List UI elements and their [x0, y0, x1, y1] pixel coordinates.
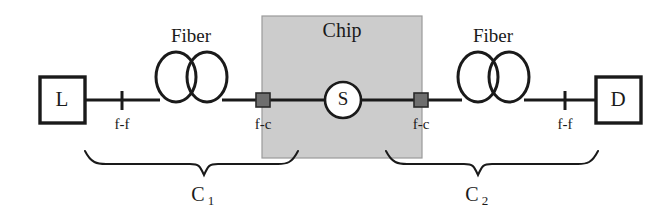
fc-connector-right: [414, 93, 428, 107]
brace-c1-subscript: 1: [208, 193, 215, 208]
ff-label-left: f-f: [115, 116, 130, 132]
chip-label: Chip: [323, 19, 362, 42]
fiber-label-right: Fiber: [473, 25, 514, 46]
brace-c2-subscript: 2: [482, 193, 489, 208]
fiber-loop-left-2: [187, 52, 227, 102]
optical-setup-diagram: Chip Fiber Fiber L D S f-f f-f f-c: [0, 0, 667, 219]
sample-label: S: [338, 88, 349, 109]
fiber-loop-right-2: [489, 52, 529, 102]
fiber-loop-right-1: [458, 52, 498, 102]
fc-connector-left: [256, 93, 270, 107]
fiber-label-left: Fiber: [171, 25, 212, 46]
diagram-canvas: Chip Fiber Fiber L D S f-f f-f f-c: [0, 0, 667, 219]
brace-c1-label: C: [191, 183, 204, 205]
detector-label: D: [610, 87, 625, 111]
laser-label: L: [56, 87, 69, 111]
fiber-loop-left-1: [156, 52, 196, 102]
fc-label-right: f-c: [413, 116, 430, 132]
ff-label-right: f-f: [558, 116, 573, 132]
brace-c2-label: C: [465, 183, 478, 205]
fc-label-left: f-c: [255, 116, 272, 132]
